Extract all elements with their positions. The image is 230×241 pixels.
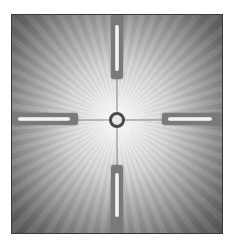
- right-post: [162, 113, 223, 125]
- bottom-post: [111, 165, 123, 234]
- center-ring-icon: [109, 112, 125, 128]
- top-post: [111, 15, 123, 79]
- left-post: [12, 113, 78, 125]
- reticle-view: [11, 14, 223, 234]
- left-post-highlight: [18, 117, 70, 121]
- bottom-post-highlight: [115, 173, 119, 217]
- right-post-highlight: [168, 117, 212, 121]
- top-post-highlight: [115, 25, 119, 71]
